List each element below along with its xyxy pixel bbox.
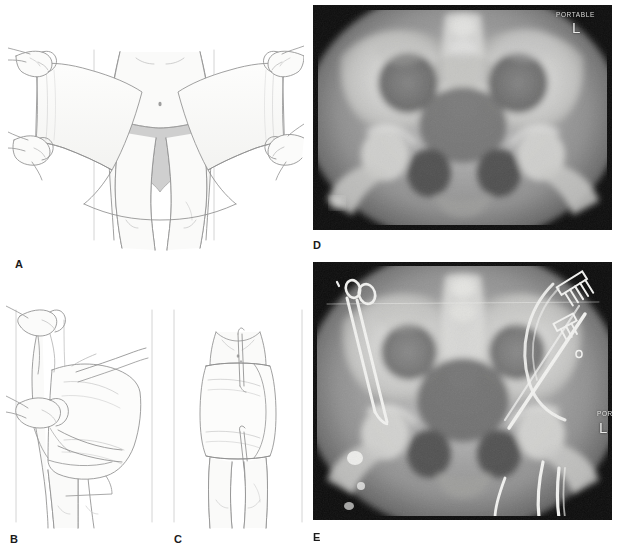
panel-label-b: B (10, 534, 18, 545)
panel-label-c: C (174, 534, 182, 545)
pelvic-binder-step-b-drawing (6, 300, 158, 530)
panel-e-radiograph: POR L (313, 262, 612, 520)
panel-d-radiograph: PORTABLE L (313, 5, 612, 230)
panel-a-illustration (8, 12, 304, 252)
panel-label-e: E (313, 532, 321, 543)
pelvic-binder-step-a-drawing (8, 12, 304, 252)
panel-label-d: D (313, 240, 321, 251)
panel-b-illustration (6, 300, 158, 530)
panel-c-illustration (168, 300, 308, 530)
pelvic-binder-step-c-drawing (168, 300, 308, 530)
ap-pelvis-radiograph-pre-binder (313, 5, 612, 230)
panel-label-a: A (15, 259, 23, 270)
figure-plate: A (0, 0, 618, 550)
ap-pelvis-radiograph-post-binder (313, 262, 612, 520)
